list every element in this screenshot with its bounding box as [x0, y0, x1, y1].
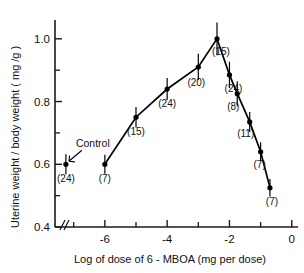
data-point [258, 149, 263, 154]
control-sample-size: (24) [57, 173, 75, 184]
y-tick-label: 0.6 [34, 158, 50, 170]
data-point [247, 119, 252, 124]
x-axis-break-icon [60, 220, 69, 230]
control-arrow-icon [69, 150, 82, 162]
y-axis-label: Uterine weight / body weight ( mg /g ) [9, 46, 21, 228]
x-axis-tick-labels: -6-4-20 [100, 233, 295, 245]
sample-size-label: (11) [237, 128, 254, 139]
sample-size-label: (24) [158, 98, 176, 109]
sample-size-label: (15) [127, 126, 145, 137]
sample-size-label: (15) [212, 46, 230, 57]
y-tick-label: 0.8 [34, 96, 50, 108]
y-axis-ticks [55, 39, 62, 227]
data-point [165, 86, 170, 91]
y-tick-label: 1.0 [34, 33, 50, 45]
chart-canvas: Uterine weight / body weight ( mg /g ) L… [0, 0, 304, 273]
control-data-point [63, 162, 68, 167]
sample-size-label: (7) [253, 159, 265, 170]
data-point [196, 64, 201, 69]
sample-size-label: (8) [227, 101, 239, 112]
y-axis-tick-labels: 1.00.80.60.4 [34, 33, 51, 233]
x-axis-label: Log of dose of 6 - MBOA (mg per dose) [74, 253, 266, 265]
data-point [214, 36, 219, 41]
figure-dose-response: Uterine weight / body weight ( mg /g ) L… [0, 0, 304, 273]
sample-size-label: (7) [99, 173, 111, 184]
data-markers [102, 36, 272, 190]
sample-size-label: (24) [225, 83, 243, 94]
control-label: Control [76, 137, 110, 149]
sample-size-label: (20) [187, 77, 205, 88]
sample-size-label: (7) [266, 196, 278, 207]
x-tick-label: -2 [224, 233, 234, 245]
data-point [267, 185, 272, 190]
x-tick-label: 0 [289, 233, 295, 245]
x-tick-label: -6 [100, 233, 110, 245]
data-point [227, 72, 232, 77]
data-point [102, 162, 107, 167]
x-tick-label: -4 [162, 233, 173, 245]
y-tick-label: 0.4 [34, 221, 51, 233]
data-line [105, 39, 270, 188]
data-point [133, 115, 138, 120]
x-axis-ticks [74, 220, 292, 227]
